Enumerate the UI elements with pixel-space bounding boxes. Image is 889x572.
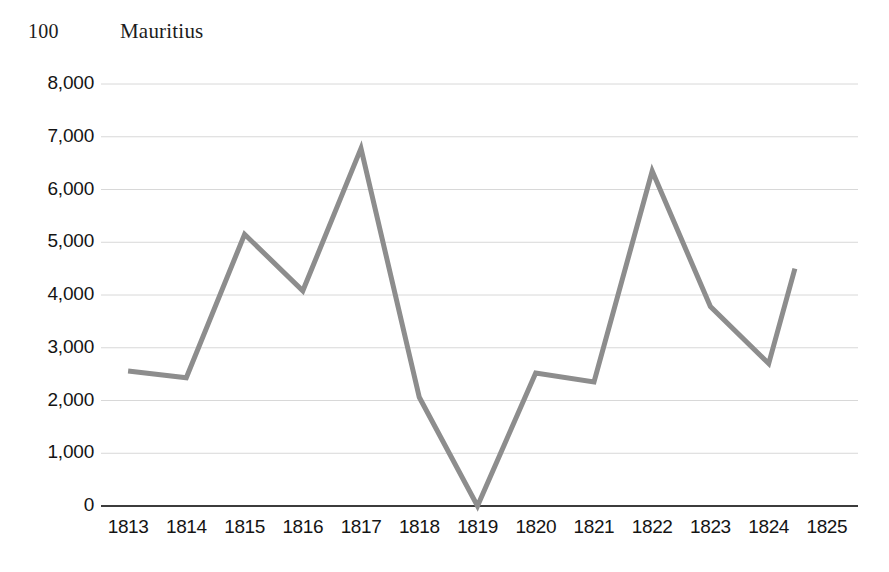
x-axis-tick-label: 1823 — [680, 516, 740, 538]
y-axis-tick-label: 2,000 — [8, 389, 94, 411]
x-axis-tick-label: 1825 — [797, 516, 857, 538]
x-axis-tick-label: 1816 — [273, 516, 333, 538]
data-line-mauritius — [128, 148, 795, 506]
data-series-group — [128, 148, 795, 506]
x-axis-tick-label: 1818 — [389, 516, 449, 538]
x-axis-tick-label: 1817 — [331, 516, 391, 538]
line-chart: 01,0002,0003,0004,0005,0006,0007,0008,00… — [0, 0, 889, 572]
x-axis-tick-label: 1814 — [156, 516, 216, 538]
y-axis-tick-label: 7,000 — [8, 125, 94, 147]
y-axis-tick-label: 6,000 — [8, 178, 94, 200]
x-axis-tick-label: 1824 — [739, 516, 799, 538]
x-axis-tick-label: 1821 — [564, 516, 624, 538]
x-axis-tick-label: 1820 — [506, 516, 566, 538]
y-axis-tick-label: 3,000 — [8, 336, 94, 358]
figure-container: 100 Mauritius 01,0002,0003,0004,0005,000… — [0, 0, 889, 572]
y-axis-tick-label: 0 — [8, 494, 94, 516]
x-axis-tick-label: 1815 — [215, 516, 275, 538]
gridlines-group — [101, 84, 858, 453]
y-axis-tick-label: 1,000 — [8, 441, 94, 463]
x-axis-tick-label: 1813 — [98, 516, 158, 538]
y-axis-tick-label: 4,000 — [8, 283, 94, 305]
chart-canvas — [0, 0, 889, 572]
x-axis-tick-label: 1822 — [622, 516, 682, 538]
y-axis-tick-label: 5,000 — [8, 230, 94, 252]
y-axis-tick-label: 8,000 — [8, 72, 94, 94]
x-axis-tick-label: 1819 — [448, 516, 508, 538]
